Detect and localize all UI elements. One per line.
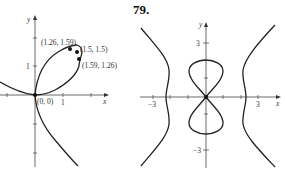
left-y-label: y xyxy=(26,15,31,24)
point-1-59-1-26 xyxy=(77,57,81,61)
point-1-26-1-59 xyxy=(68,47,72,51)
label-1-26-1-59: (1.26, 1.59) xyxy=(41,38,76,47)
label-1-59-1-26: (1.59, 1.26) xyxy=(82,61,117,70)
right-y-label: y xyxy=(198,20,203,29)
label-origin: (0, 0) xyxy=(37,97,54,106)
right-x-tick-neg3: −3 xyxy=(148,100,156,109)
right-y-tick-neg3: −3 xyxy=(193,146,201,155)
left-graph: y x 1 1 (0, 0) (1.26, 1.59) (1.5, 1.5) (… xyxy=(0,15,117,167)
right-point-origin xyxy=(204,95,208,99)
label-1-5-1-5: (1.5, 1.5) xyxy=(80,45,108,54)
left-y-arrow-icon xyxy=(33,15,37,20)
right-x-label: x xyxy=(275,99,280,108)
figure: y x 1 1 (0, 0) (1.26, 1.59) (1.5, 1.5) (… xyxy=(0,0,285,175)
left-curve-loop xyxy=(35,45,82,95)
left-curve-branch-upper xyxy=(0,82,35,95)
point-1-5-1-5 xyxy=(75,50,79,54)
problem-number: 79. xyxy=(133,2,149,17)
right-curve-right-branch xyxy=(243,25,275,167)
left-y-tick-1: 1 xyxy=(26,62,30,71)
right-x-tick-3: 3 xyxy=(256,100,260,109)
right-graph: 79. y x −3 3 3 −3 xyxy=(133,2,281,168)
left-x-tick-1: 1 xyxy=(61,98,65,107)
right-y-arrow-icon xyxy=(204,22,208,27)
left-x-label: x xyxy=(102,97,107,106)
right-y-tick-3: 3 xyxy=(196,39,200,48)
